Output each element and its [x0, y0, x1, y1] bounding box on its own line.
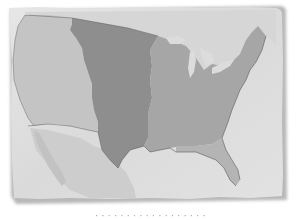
map-caption: · · · · · · · · · · · · · · · · · ·	[0, 211, 301, 220]
torn-paper-map	[0, 0, 301, 220]
map-figure: · · · · · · · · · · · · · · · · · ·	[0, 0, 301, 220]
